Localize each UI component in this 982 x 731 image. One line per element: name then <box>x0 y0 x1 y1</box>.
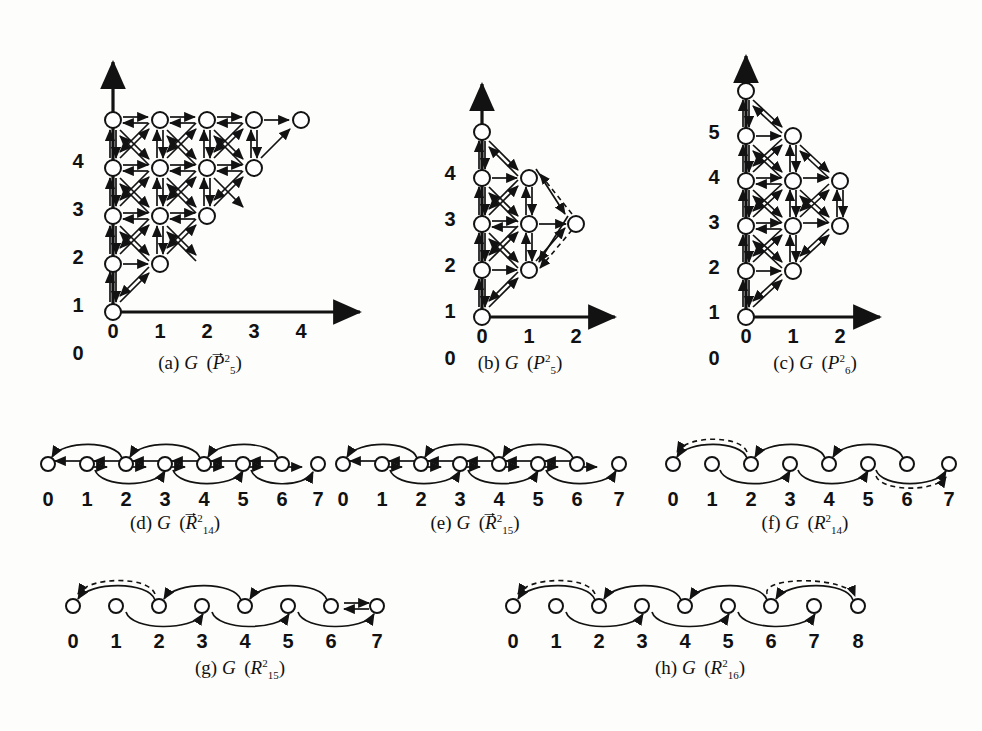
panel-b-ytick-2: 2 <box>438 254 462 277</box>
path-nodes <box>506 599 865 613</box>
vector-arrow-icon <box>185 510 197 518</box>
panel-f-caption-script: G <box>785 512 799 533</box>
panel-g-operand-sub: 15 <box>268 669 279 681</box>
panel-b-ytick-1: 1 <box>438 300 462 323</box>
lattice-nodes <box>738 83 848 325</box>
panel-d-caption-script: G <box>157 512 171 533</box>
panel-g-label-3: 3 <box>190 630 214 653</box>
panel-e-caption-script: G <box>456 512 470 533</box>
panel-e-caption-prefix: (e) <box>431 512 452 533</box>
panel-a-ytick-3: 3 <box>66 198 90 221</box>
panel-b-ytick-4: 4 <box>438 162 462 185</box>
panel-d-label-5: 5 <box>231 488 255 511</box>
panel-c-ytick-3: 3 <box>702 211 726 234</box>
panel-f-label-4: 4 <box>817 488 841 511</box>
panel-g-operand-sup: 2 <box>262 657 268 669</box>
panel-g-operand-letter: R <box>251 657 263 678</box>
panel-b-ytick-3: 3 <box>438 208 462 231</box>
vector-arrow-icon <box>484 510 496 518</box>
panel-h-caption-prefix: (h) <box>655 657 677 678</box>
path-nodes <box>336 457 626 471</box>
panel-f-label-7: 7 <box>937 488 961 511</box>
panel-d-label-4: 4 <box>192 488 216 511</box>
panel-d-label-3: 3 <box>153 488 177 511</box>
panel-h-label-6: 6 <box>759 630 783 653</box>
panel-h-label-4: 4 <box>673 630 697 653</box>
panel-c-operand-letter: P <box>828 352 840 373</box>
panel-g-caption: (g) G (R215) <box>140 657 340 681</box>
panel-h-label-8: 8 <box>846 630 870 653</box>
panel-d: 0 1 2 3 4 5 6 7 <box>30 428 320 498</box>
panel-d-label-6: 6 <box>270 488 294 511</box>
panel-d-label-1: 1 <box>75 488 99 511</box>
panel-a-operand-sup: 2 <box>224 352 230 364</box>
lower-arcs <box>566 612 815 627</box>
panel-c-graph <box>690 40 950 345</box>
lower-arcs <box>720 470 946 484</box>
panel-g-label-0: 0 <box>61 630 85 653</box>
panel-b-caption: (b) G (P25) <box>420 352 620 376</box>
panel-c-ytick-5: 5 <box>702 121 726 144</box>
panel-c-ytick-2: 2 <box>702 256 726 279</box>
upper-arcs <box>677 444 903 458</box>
panel-h-label-3: 3 <box>630 630 654 653</box>
panel-g-label-5: 5 <box>276 630 300 653</box>
panel-d-operand-sub: 14 <box>203 524 214 536</box>
panel-f-label-3: 3 <box>778 488 802 511</box>
panel-g-label-6: 6 <box>319 630 343 653</box>
panel-g-label-7: 7 <box>365 630 389 653</box>
panel-h-label-0: 0 <box>501 630 525 653</box>
panel-f-caption-prefix: (f) <box>762 512 781 533</box>
panel-a-operand: P <box>213 352 225 374</box>
panel-b-xtick-0: 0 <box>470 325 494 348</box>
panel-g-caption-script: G <box>222 657 236 678</box>
panel-c-caption-script: G <box>799 352 813 373</box>
path-nodes <box>41 457 325 471</box>
panel-c-caption-prefix: (c) <box>773 352 794 373</box>
dashed-arcs <box>78 581 155 595</box>
panel-e-label-0: 0 <box>331 488 355 511</box>
panel-e-label-2: 2 <box>409 488 433 511</box>
panel-a-ytick-4: 4 <box>66 150 90 173</box>
panel-a-caption-script: G <box>184 352 198 373</box>
panel-f-operand-sub: 14 <box>831 524 842 536</box>
panel-a-caption-prefix: (a) <box>158 352 179 373</box>
panel-g: 0 1 2 3 4 5 6 7 <box>55 570 385 640</box>
panel-g-label-4: 4 <box>233 630 257 653</box>
panel-c-ytick-1: 1 <box>702 301 726 324</box>
panel-b-caption-script: G <box>505 352 519 373</box>
panel-f-operand-sup: 2 <box>826 512 832 524</box>
panel-f-label-1: 1 <box>700 488 724 511</box>
axis-lines <box>113 62 360 312</box>
panel-c: 0 1 2 3 4 5 0 1 2 <box>690 40 950 345</box>
panel-c-caption: (c) G (P26) <box>715 352 915 376</box>
panel-b-operand-sup: 2 <box>545 352 551 364</box>
panel-a-xtick-1: 1 <box>148 320 172 343</box>
lower-arcs <box>390 470 616 484</box>
upper-arcs <box>52 444 278 458</box>
panel-d-operand-sup: 2 <box>197 512 203 524</box>
panel-h-operand-sub: 16 <box>728 669 739 681</box>
panel-a-xtick-0: 0 <box>101 320 125 343</box>
panel-h-operand-sup: 2 <box>722 657 728 669</box>
panel-e-label-5: 5 <box>526 488 550 511</box>
lower-arcs <box>95 470 313 484</box>
panel-e-label-4: 4 <box>487 488 511 511</box>
dashed-arcs <box>518 581 855 597</box>
panel-h-operand-letter: R <box>711 657 723 678</box>
bidirectional-edge-6-7 <box>344 603 369 609</box>
panel-a-xtick-2: 2 <box>195 320 219 343</box>
panel-f-caption: (f) G (R214) <box>705 512 905 536</box>
panel-f-label-0: 0 <box>661 488 685 511</box>
panel-b: 0 1 2 3 4 0 1 2 <box>400 68 650 343</box>
upper-arcs <box>518 586 853 600</box>
panel-h-label-5: 5 <box>716 630 740 653</box>
upper-arcs <box>347 444 573 458</box>
panel-a-ytick-0: 0 <box>66 342 90 365</box>
panel-e: 0 1 2 3 4 5 6 7 <box>325 428 625 498</box>
axis-lines <box>746 56 880 317</box>
panel-e-label-6: 6 <box>565 488 589 511</box>
panel-g-caption-prefix: (g) <box>195 657 217 678</box>
vector-arrow-icon <box>212 350 224 358</box>
panel-d-label-0: 0 <box>36 488 60 511</box>
